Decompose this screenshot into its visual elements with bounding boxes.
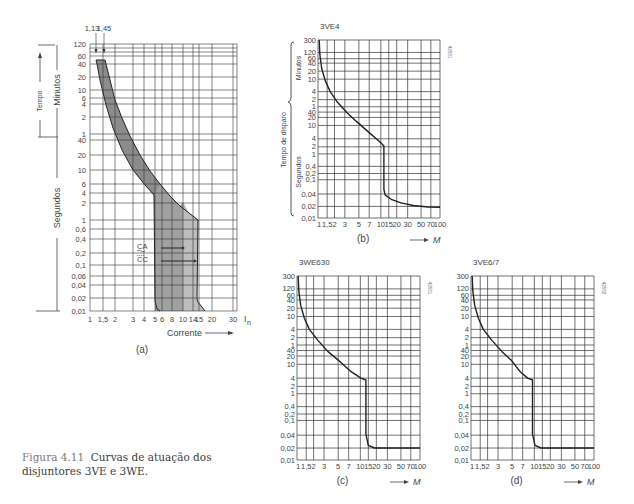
y-tick-label-d: 300 (456, 272, 469, 281)
x-tick-label-d: 30 (557, 462, 565, 471)
x-tick-label: 1,5 (98, 315, 108, 324)
y-tick-label-b: 0,04 (301, 190, 316, 199)
chart-title-d: 3VE6/7 (473, 258, 500, 267)
figure-code-b: 42581 (447, 46, 452, 59)
annotation-ca: CA (137, 242, 147, 251)
figure-code-c: 42581 (427, 282, 432, 295)
x-tick-label-d: 2 (486, 462, 490, 471)
y-tick-label-seconds: 0,01 (71, 307, 86, 316)
y-group-seconds-b: Segundos (295, 156, 303, 188)
x-axis-label: Corrente (167, 328, 202, 338)
x-axis-label-d: M (587, 477, 595, 487)
x-tick-label-b: 7 (367, 220, 371, 229)
x-tick-label-b: 1,5 (322, 220, 332, 229)
x-tick-label: 15 (195, 315, 203, 324)
y-tick-label-c: 0,1 (285, 416, 295, 425)
trip-curve-c (298, 276, 420, 448)
annotation-cc: CC (137, 255, 148, 264)
x-tick-label-c: 3 (322, 462, 326, 471)
trip-curve-b (319, 40, 440, 207)
x-tick-label-b: 2 (332, 220, 336, 229)
x-tick-label-b: 100 (434, 220, 447, 229)
y-tick-label-seconds: 0,2 (76, 249, 86, 258)
y-group-minutes: Minutos (52, 74, 62, 106)
y-tick-label-seconds: 40 (78, 136, 86, 145)
y-tick-label-minutes: 2 (82, 113, 86, 122)
y-tick-label-b: 0,01 (301, 214, 316, 223)
y-tick-label-minutes: 20 (78, 73, 86, 82)
x-tick-label-d: 5 (510, 462, 514, 471)
x-axis-label-c: M (413, 477, 421, 487)
y-tick-label-seconds: 2 (82, 199, 86, 208)
y-tick-label-seconds: 0,1 (76, 261, 86, 270)
y-tick-label-seconds: 0,4 (76, 235, 86, 244)
x-tick-label-b: 30 (403, 220, 411, 229)
chart-title-b: 3VE4 (320, 22, 340, 31)
chart-c: 300120604020104214020104210,40,20,10,040… (280, 258, 432, 487)
x-tick-label-b: 50 (417, 220, 425, 229)
y-tick-label-d: 10 (461, 312, 469, 321)
chart-subtitle-c: (c) (337, 475, 349, 486)
x-tick-label-b: 1 (317, 220, 321, 229)
x-tick-label-c: 2 (312, 462, 316, 471)
x-tick-label: 1 (88, 315, 92, 324)
y-tick-label-d: 0,04 (454, 431, 469, 440)
x-tick-label-c: 1 (296, 462, 300, 471)
x-tick-label-c: 7 (347, 462, 351, 471)
y-tick-label-b: 1 (312, 150, 316, 159)
x-tick-label: 8 (170, 315, 174, 324)
y-axis-label-b: Tempo de disparo (280, 112, 288, 168)
y-tick-label-b: 10 (308, 121, 316, 130)
y-tick-label-c: 10 (287, 360, 295, 369)
y-brace-b (288, 42, 294, 216)
x-tick-label: 2 (113, 315, 117, 324)
x-tick-label: 3 (131, 315, 135, 324)
y-tick-label-seconds: 0,06 (71, 272, 86, 281)
y-group-minutes-b: Minutos (295, 55, 302, 80)
y-tick-label-seconds: 0,6 (76, 225, 86, 234)
x-unit-subscript: n (247, 319, 251, 326)
y-tick-label-minutes: 40 (78, 60, 86, 69)
chart-title-c: 3WE630 (299, 258, 330, 267)
x-tick-label-c: 50 (397, 462, 405, 471)
y-tick-label-b: 0,1 (306, 175, 316, 184)
y-tick-label-c: 1 (291, 389, 295, 398)
x-axis-arrow-head (228, 331, 234, 335)
x-tick-label-c: 5 (336, 462, 340, 471)
figure-canvas: 12060402010642140201064210,60,40,20,10,0… (0, 0, 634, 504)
figure-label: Figura 4.11 (22, 451, 84, 463)
chart-b: 300120604020104214020104210,40,20,10,040… (280, 22, 452, 245)
y-tick-label-c: 0,04 (280, 431, 295, 440)
y-tick-label-minutes: 4 (82, 100, 86, 109)
x-tick-label-d: 50 (571, 462, 579, 471)
y-tick-label-seconds: 10 (78, 166, 86, 175)
x-tick-label: 4 (142, 315, 146, 324)
marker-arrow-113 (95, 49, 98, 53)
x-axis-arrow-head-c (404, 480, 409, 484)
y-tick-label-c: 0,01 (280, 456, 295, 465)
y-tick-label-c: 300 (282, 272, 295, 281)
x-tick-label-b: 20 (393, 220, 401, 229)
y-tick-label-d: 10 (461, 360, 469, 369)
y-tick-label-c: 0,02 (280, 444, 295, 453)
trip-curve-d (472, 276, 594, 448)
y-tick-label-seconds: 0,04 (71, 281, 86, 290)
y-tick-label-d: 0,01 (454, 456, 469, 465)
x-tick-label-c: 20 (372, 462, 380, 471)
x-tick-label: 30 (229, 315, 237, 324)
x-tick-label: 10 (179, 315, 187, 324)
tempo-arrow-head (38, 52, 42, 58)
x-tick-label-d: 100 (588, 462, 601, 471)
x-axis-arrow-head-d (578, 480, 583, 484)
y-tick-label-d: 1 (465, 389, 469, 398)
x-tick-label: 6 (160, 315, 164, 324)
x-tick-label-b: 5 (357, 220, 361, 229)
x-tick-label: 20 (208, 315, 216, 324)
marker-label-145: 1,45 (97, 24, 112, 33)
x-tick-label-b: 3 (343, 220, 347, 229)
x-tick-label-c: 1,5 (301, 462, 311, 471)
y-tick-label-seconds: 0,02 (71, 294, 86, 303)
chart-subtitle-b: (b) (357, 233, 369, 244)
x-tick-label-d: 3 (496, 462, 500, 471)
figure-caption: Figura 4.11 Curvas de atuação dos disjun… (22, 450, 262, 478)
